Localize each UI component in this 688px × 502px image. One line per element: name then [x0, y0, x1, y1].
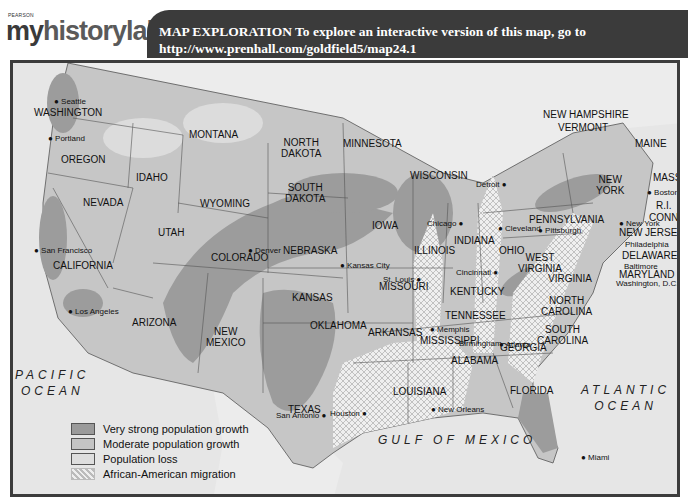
state-label-new-york: NEW YORK	[596, 175, 624, 196]
city-label: Miami	[588, 453, 609, 462]
legend-label: Population loss	[103, 453, 178, 465]
city-new-orleans: ● New Orleans	[431, 405, 484, 414]
state-label-illinois: ILLINOIS	[414, 246, 455, 257]
scale-bar: 0 100 200 300 Miles 0 100 200 300 Kilome…	[418, 495, 538, 497]
state-label-minnesota: MINNESOTA	[343, 139, 402, 150]
state-label-montana: MONTANA	[189, 130, 238, 141]
city-label: Atlanta	[506, 340, 531, 349]
state-label-west-virginia: WEST VIRGINIA	[518, 253, 562, 274]
city-label: Kansas City	[347, 261, 390, 270]
city-detroit: Detroit ●	[476, 180, 507, 189]
city-pittsburgh: ● Pittsburgh	[538, 226, 581, 235]
swatch-loss	[71, 453, 95, 465]
state-label-south-carolina: SOUTH CAROLINA	[537, 325, 588, 346]
city-boston: ● Boston	[647, 188, 679, 197]
city-label: Boston	[654, 188, 679, 197]
city-label: San Antonio	[276, 411, 319, 420]
city-label: New Orleans	[438, 405, 484, 414]
state-label-iowa: IOWA	[372, 221, 398, 232]
map-legend: Very strong population growth Moderate p…	[71, 421, 249, 481]
state-label-kansas: KANSAS	[292, 293, 333, 304]
legend-label: Very strong population growth	[103, 423, 249, 435]
state-label-wyoming: WYOMING	[200, 199, 250, 210]
city-label: Houston	[330, 409, 360, 418]
state-label-north-carolina: NORTH CAROLINA	[541, 296, 592, 317]
state-label-maine: MAINE	[635, 139, 667, 150]
city-birmingham: Birmingham	[459, 339, 502, 348]
state-label-louisiana: LOUISIANA	[393, 387, 446, 398]
state-label-arizona: ARIZONA	[132, 318, 176, 329]
city-kansas-city: ● Kansas City	[340, 261, 390, 270]
scale-mile-200: 200	[461, 495, 471, 497]
logo-historylab: historylab	[43, 16, 162, 46]
city-label: Washington, D.C.	[616, 279, 678, 288]
city-cincinnati: Cincinnati ●	[456, 268, 498, 277]
ocean-line-1: PACIFIC	[15, 368, 89, 384]
city-label: New York	[626, 219, 660, 228]
city-miami: ● Miami	[581, 453, 609, 462]
map-frame: WASHINGTON OREGON CALIFORNIA NEVADA IDAH…	[10, 60, 680, 497]
city-los-angeles: ● Los Angeles	[68, 307, 119, 316]
state-label-alabama: ALABAMA	[451, 356, 498, 367]
state-label-oregon: OREGON	[61, 155, 105, 166]
state-label-california: CALIFORNIA	[53, 261, 113, 272]
state-label-wisconsin: WISCONSIN	[410, 171, 468, 182]
state-label-new-mexico: NEW MEXICO	[206, 327, 245, 348]
city-label: Seattle	[61, 97, 86, 106]
city-label: Memphis	[437, 325, 469, 334]
state-label-tennessee: TENNESSEE	[445, 311, 506, 322]
map-exploration-banner: MAP EXPLORATION To explore an interactiv…	[147, 10, 688, 58]
city-label: Baltimore	[624, 262, 658, 271]
swatch-moderate	[71, 438, 95, 450]
legend-item-very-strong: Very strong population growth	[71, 421, 249, 436]
myhistorylab-logo[interactable]: PEARSON myhistorylab	[6, 12, 146, 52]
city-label: Philadelphia	[625, 240, 669, 249]
pacific-ocean-label: PACIFICOCEAN	[15, 368, 89, 399]
state-label-utah: UTAH	[158, 228, 184, 239]
state-label-florida: FLORIDA	[510, 386, 553, 397]
scale-bar-graphic	[418, 495, 538, 497]
banner-url-link[interactable]: http://www.prenhall.com/goldfield5/map24…	[159, 41, 416, 57]
city-philadelphia: Philadelphia	[625, 240, 669, 249]
state-label-massachusetts: MASS.	[653, 173, 680, 184]
logo-wordmark: myhistorylab	[6, 16, 162, 47]
legend-label: Moderate population growth	[103, 438, 239, 450]
gulf-of-mexico-label: GULF OF MEXICO	[378, 433, 536, 449]
state-label-new-hampshire: NEW HAMPSHIRE	[543, 110, 629, 121]
city-seattle: ● Seattle	[54, 97, 86, 106]
state-label-washington: WASHINGTON	[34, 108, 102, 119]
ocean-line-2: OCEAN	[15, 384, 89, 400]
state-label-rhode-island: R.I.	[656, 201, 672, 212]
state-label-idaho: IDAHO	[136, 173, 168, 184]
city-label: Los Angeles	[75, 307, 119, 316]
city-denver: ● Denver	[248, 246, 281, 255]
city-portland: ● Portland	[48, 134, 85, 143]
state-label-nebraska: NEBRASKA	[283, 246, 337, 257]
city-label: Portland	[55, 134, 85, 143]
state-label-oklahoma: OKLAHOMA	[310, 321, 367, 332]
state-label-south-dakota: SOUTH DAKOTA	[285, 183, 325, 204]
city-label: Pittsburgh	[545, 226, 581, 235]
state-label-arkansas: ARKANSAS	[368, 328, 422, 339]
city-san-francisco: ● San Francisco	[34, 246, 92, 255]
ocean-line-1: ATLANTIC	[581, 383, 670, 399]
state-label-new-jersey: NEW JERSEY	[619, 228, 680, 239]
banner-text: MAP EXPLORATION To explore an interactiv…	[159, 24, 586, 40]
city-label: St. Louis	[383, 275, 414, 284]
swatch-migration-arrow-icon	[71, 468, 95, 480]
state-label-kentucky: KENTUCKY	[450, 287, 504, 298]
state-label-virginia: VIRGINIA	[548, 274, 592, 285]
city-new-york: ● New York	[619, 219, 660, 228]
legend-item-loss: Population loss	[71, 451, 249, 466]
state-label-nevada: NEVADA	[83, 198, 123, 209]
city-chicago: Chicago ●	[427, 219, 463, 228]
city-san-antonio: San Antonio ●	[276, 411, 326, 420]
scale-mile-300: 300 Miles	[482, 495, 508, 497]
city-baltimore: Baltimore	[624, 262, 658, 271]
city-label: Denver	[255, 246, 281, 255]
city-atlanta: ● Atlanta	[499, 340, 531, 349]
city-label: Cincinnati	[456, 268, 491, 277]
city-washington-dc: Washington, D.C.	[616, 279, 678, 288]
city-label: Detroit	[476, 180, 500, 189]
city-label: Birmingham	[459, 339, 502, 348]
